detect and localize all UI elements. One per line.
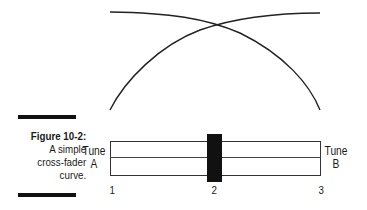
fader-knob — [207, 134, 222, 182]
figure-caption: Figure 10-2: A simple cross-fader curve. — [31, 130, 86, 182]
figure-number: Figure 10-2: — [31, 130, 86, 143]
caption-line: cross-fader — [31, 156, 86, 169]
tune-b-curve — [110, 13, 320, 110]
tune-b-label-line2: B — [324, 158, 348, 171]
tune-a-curve — [110, 12, 320, 110]
tune-a-label: Tune A — [82, 145, 106, 171]
caption-line: curve. — [31, 169, 86, 182]
position-tick-2: 2 — [211, 184, 216, 196]
tune-b-label: Tune B — [324, 145, 348, 171]
position-tick-1: 1 — [109, 184, 114, 196]
caption-bottom-rule — [18, 193, 76, 197]
tune-a-label-line2: A — [82, 158, 106, 171]
caption-line: A simple — [31, 143, 86, 156]
position-tick-3: 3 — [318, 184, 323, 196]
caption-top-rule — [18, 115, 76, 119]
